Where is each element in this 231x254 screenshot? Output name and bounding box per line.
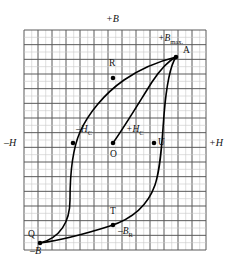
point-label-o: O <box>110 150 117 160</box>
point-marker-u <box>152 141 157 146</box>
axis-label-positive-b: +B <box>106 14 119 24</box>
point-marker-o <box>111 141 116 146</box>
point-label-a: A <box>183 46 190 56</box>
point-label-bmax: +Bmax. <box>158 34 183 45</box>
axis-label-negative-b: –B <box>30 246 41 254</box>
point-label-phc: +HC <box>126 125 144 136</box>
point-marker-a <box>174 55 179 60</box>
point-label-u: U <box>158 138 165 148</box>
point-marker-t <box>111 223 116 228</box>
point-label-t: T <box>110 207 116 217</box>
point-label-mhc: –HC <box>76 125 92 136</box>
point-label-r: R <box>109 59 115 69</box>
point-label-mbr: –BR <box>118 227 133 238</box>
axis-label-negative-h: –H <box>4 138 16 148</box>
point-marker-mhc <box>71 141 76 146</box>
axis-label-positive-h: +H <box>209 138 223 148</box>
point-label-q: Q <box>28 230 35 240</box>
figure-canvas: +B –H +H –B A+Bmax.R–HCO+HCUT–BRQ <box>0 0 231 254</box>
point-marker-r <box>111 76 116 81</box>
